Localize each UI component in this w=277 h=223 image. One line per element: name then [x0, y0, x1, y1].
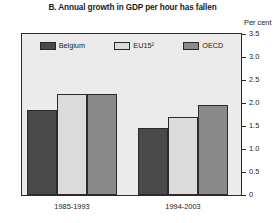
y-tick-mark [242, 103, 246, 104]
y-axis-unit-label: Per cent [244, 19, 272, 27]
y-tick-label: 2.5 [249, 76, 259, 84]
bar-eu15-1985-1993 [57, 94, 87, 195]
category-label: 1985-1993 [54, 202, 89, 211]
y-tick-label: 0 [249, 191, 253, 199]
y-tick-mark [242, 149, 246, 150]
x-axis-category-labels: 1985-19931994-2003 [21, 202, 242, 214]
y-tick-mark [242, 172, 246, 173]
legend-item-label: Belgium [59, 42, 85, 50]
bar-belgium-1994-2003 [138, 128, 168, 195]
legend-item: OECD [183, 42, 223, 50]
y-tick-label: 3.0 [249, 53, 259, 61]
chart-legend: BelgiumEU15²OECD [21, 38, 242, 54]
y-tick-mark [242, 195, 246, 196]
y-tick-label: 2.0 [249, 99, 259, 107]
legend-item-label: EU15² [133, 42, 154, 50]
legend-item-label: OECD [202, 42, 223, 50]
bar-belgium-1985-1993 [27, 110, 57, 195]
y-tick-mark [242, 34, 246, 35]
y-tick-label: 1.5 [249, 122, 259, 130]
bars-layer [22, 34, 241, 195]
legend-swatch-oecd [183, 42, 199, 50]
category-label: 1994-2003 [165, 202, 200, 211]
gdp-growth-bar-chart: B. Annual growth in GDP per hour has fal… [0, 0, 277, 223]
y-tick-label: 3.5 [249, 30, 259, 38]
bar-eu15-1994-2003 [168, 117, 198, 195]
bar-oecd-1994-2003 [198, 105, 228, 195]
legend-swatch-eu15 [114, 42, 130, 50]
y-tick-mark [242, 80, 246, 81]
legend-item: EU15² [114, 42, 154, 50]
y-tick-label: 1.0 [249, 145, 259, 153]
legend-item: Belgium [40, 42, 85, 50]
chart-title: B. Annual growth in GDP per hour has fal… [0, 3, 265, 13]
bar-oecd-1985-1993 [87, 94, 117, 195]
y-tick-mark [242, 57, 246, 58]
y-axis: 00.51.01.52.02.53.03.5 [242, 33, 277, 197]
legend-swatch-belgium [40, 42, 56, 50]
y-tick-label: 0.5 [249, 168, 259, 176]
y-tick-mark [242, 126, 246, 127]
